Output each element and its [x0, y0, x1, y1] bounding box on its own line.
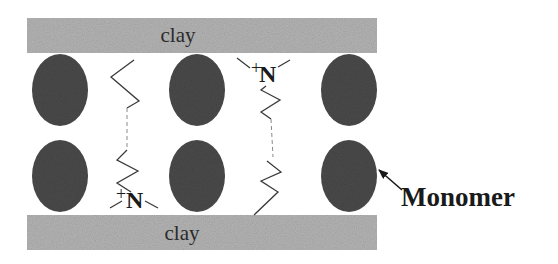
surfactant-chain-left: + N	[110, 60, 158, 213]
chain-right-upper-zigzag	[261, 86, 280, 119]
surfactant-chain-right: + N	[237, 58, 290, 215]
intercalation-diagram: clay clay + N + N Monomer	[0, 0, 558, 264]
chain-right-dashed-link	[271, 119, 273, 157]
monomer-row1-col3	[321, 54, 377, 126]
clay-layer-bottom: clay	[27, 215, 377, 250]
chain-right-head-bond-left	[237, 58, 250, 68]
clay-layer-top: clay	[27, 18, 377, 53]
callout-arrow	[379, 170, 402, 190]
chain-left-head-bond-right	[145, 201, 158, 208]
chain-left-charge: +	[116, 184, 126, 204]
monomer-row2-col2	[169, 140, 225, 212]
chain-left-upper-zigzag	[111, 60, 139, 108]
monomer-row1-col2	[169, 54, 225, 126]
chain-right-head-bond-right	[278, 60, 290, 67]
monomer-grid	[32, 54, 377, 212]
monomer-row1-col1	[32, 54, 88, 126]
chain-left-nitrogen: N	[126, 187, 144, 213]
chain-right-nitrogen: N	[259, 61, 277, 87]
chain-right-lower-zigzag	[254, 161, 281, 215]
monomer-row2-col3	[321, 140, 377, 212]
monomer-callout-label: Monomer	[401, 182, 515, 212]
monomer-callout: Monomer	[379, 170, 515, 212]
clay-layer-bottom-bar	[27, 215, 377, 250]
clay-layer-top-bar	[27, 18, 377, 53]
monomer-row2-col1	[32, 140, 88, 212]
clay-label-bottom: clay	[165, 221, 200, 245]
clay-label-top: clay	[161, 23, 196, 47]
